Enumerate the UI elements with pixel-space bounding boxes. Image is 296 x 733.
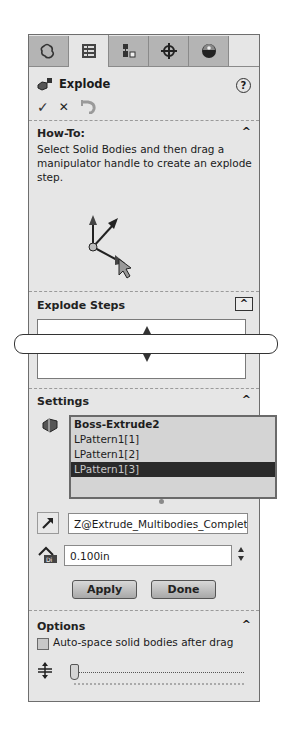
explode-steps-title: Explode Steps: [37, 299, 125, 312]
tab-configuration-manager[interactable]: [109, 36, 149, 66]
ok-button[interactable]: ✓: [37, 99, 49, 115]
section-divider: [29, 120, 259, 121]
list-item[interactable]: LPattern1[2]: [71, 447, 275, 462]
feature-title: Explode: [59, 77, 110, 91]
section-divider: [29, 388, 259, 389]
configuration-manager-icon: [121, 43, 137, 59]
distance-spinner[interactable]: [236, 544, 246, 566]
reverse-direction-button[interactable]: [37, 512, 59, 534]
options-collapse-button[interactable]: ^: [242, 618, 251, 631]
spacing-slider-ticks: [74, 683, 244, 685]
list-resize-handle[interactable]: [159, 499, 164, 504]
help-button[interactable]: ?: [236, 78, 251, 93]
feature-header: Explode: [37, 77, 110, 91]
display-manager-icon: [201, 43, 217, 59]
apply-button[interactable]: Apply: [72, 580, 137, 599]
tab-property-manager[interactable]: [69, 35, 109, 67]
break-arrow-down-icon: [143, 354, 151, 362]
distance-icon: Di: [37, 545, 59, 565]
tab-dimxpert-manager[interactable]: [149, 36, 189, 66]
direction-arrow-icon: [41, 516, 55, 530]
settings-title: Settings: [37, 395, 89, 408]
svg-text:Di: Di: [46, 556, 53, 563]
options-title: Options: [37, 620, 85, 633]
tab-feature-manager[interactable]: [29, 36, 69, 66]
direction-field[interactable]: Z@Extrude_Multibodies_Complete: [68, 513, 248, 534]
distance-input[interactable]: 0.100in: [64, 545, 232, 566]
spin-down-icon[interactable]: [238, 556, 244, 561]
spin-up-icon[interactable]: [238, 547, 244, 552]
manipulator-triad-icon: [77, 213, 137, 279]
settings-collapse-button[interactable]: ^: [242, 393, 251, 406]
undo-icon[interactable]: [79, 100, 97, 114]
action-buttons: ✓ ✕: [37, 99, 97, 115]
spacing-icon: [37, 661, 53, 679]
section-divider: [29, 610, 259, 611]
spacing-slider-track[interactable]: [74, 672, 244, 673]
feature-manager-icon: [40, 43, 58, 59]
list-item[interactable]: LPattern1[1]: [71, 432, 275, 447]
solid-bodies-icon: [41, 417, 59, 433]
property-manager-panel: Explode ? ✓ ✕ How-To: ^ Select Solid Bod…: [28, 34, 260, 702]
bodies-selection-list[interactable]: Boss-Extrude2 LPattern1[1] LPattern1[2] …: [69, 415, 277, 499]
explode-icon: [37, 77, 53, 91]
spacing-slider-thumb[interactable]: [70, 664, 79, 680]
manager-tabs: [29, 35, 259, 67]
howto-title: How-To:: [37, 127, 85, 140]
list-item[interactable]: Boss-Extrude2: [71, 417, 275, 432]
section-divider: [29, 291, 259, 292]
cancel-button[interactable]: ✕: [59, 100, 69, 114]
howto-collapse-button[interactable]: ^: [242, 125, 251, 138]
list-item-selected[interactable]: LPattern1[3]: [71, 462, 275, 477]
explode-steps-collapse-button[interactable]: ^: [235, 297, 253, 311]
content-break-marker: [14, 334, 278, 354]
auto-space-label: Auto-space solid bodies after drag: [53, 636, 233, 648]
auto-space-checkbox[interactable]: [37, 638, 49, 650]
break-arrow-up-icon: [143, 326, 151, 334]
dimxpert-manager-icon: [161, 43, 177, 59]
howto-text: Select Solid Bodies and then drag a mani…: [37, 142, 252, 184]
property-manager-icon: [81, 43, 97, 59]
done-button[interactable]: Done: [151, 580, 216, 599]
tab-display-manager[interactable]: [189, 36, 229, 66]
